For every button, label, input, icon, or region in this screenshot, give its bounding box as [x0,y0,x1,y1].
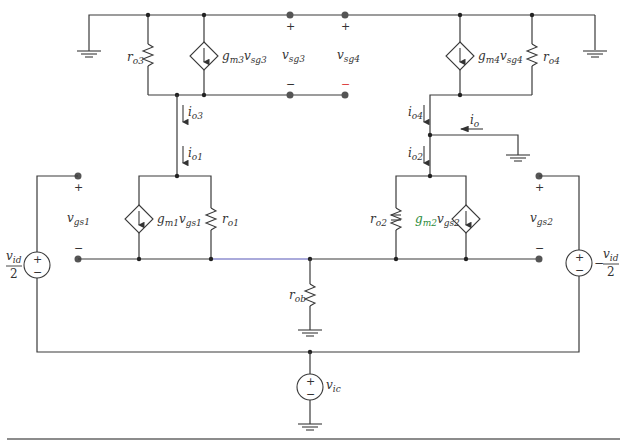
gm4-label: gm4vsg4 [478,49,523,65]
io-label: io [470,113,480,129]
svg-text:−: − [286,78,295,91]
ro2-label: ro2 [370,212,387,228]
resistor-ro4 [527,15,537,95]
dependent-current-source-gm2 [452,205,480,259]
vgs1-label: vgs1 [67,211,90,227]
svg-text:−: − [74,242,83,255]
resistor-ro2 [391,205,401,259]
svg-text:−: − [33,266,42,279]
io1-label: io1 [188,146,203,162]
voltage-source-vic: + − [297,374,323,401]
svg-text:2: 2 [10,267,18,281]
svg-text:+: + [33,253,42,266]
resistor-ro3 [143,15,153,95]
ground-icon [77,44,101,57]
ro3-label: ro3 [127,50,144,66]
svg-text:vid: vid [6,249,22,265]
dependent-current-source-gm4 [446,15,474,95]
io3-label: io3 [188,105,203,121]
vsg4-label: vsg4 [337,48,360,64]
gm1-label: gm1vgs1 [157,212,202,228]
voltage-source-vid-half-right: + − [566,250,592,277]
ground-icon [298,424,322,430]
svg-text:−: − [306,388,315,401]
rob-label: rob [289,288,306,304]
dependent-current-source-gm1 [125,205,153,259]
resistor-rob [305,259,315,330]
gm3-label: gm3vsg3 [222,49,267,65]
io2-label: io2 [408,146,423,162]
svg-text:−: − [535,242,544,255]
vic-label: vic [326,378,341,394]
svg-text:−: − [341,78,350,91]
vid-half-left-label: vid 2 [6,249,22,281]
svg-text:+: + [575,251,584,264]
svg-text:+: + [74,181,83,194]
svg-text:+: + [341,20,350,33]
voltage-source-vid-half-left: + − [24,252,50,279]
vid-half-right-label: − vid 2 [594,247,619,279]
svg-text:−: − [575,264,584,277]
circuit-diagram: ro3 gm3vsg3 + − vsg3 + − vsg4 gm4vsg4 [0,0,632,446]
resistor-ro1 [206,205,216,259]
ro1-label: ro1 [222,212,239,228]
dependent-current-source-gm3 [190,15,218,95]
ground-icon [298,330,322,336]
vsg3-label: vsg3 [282,48,305,64]
svg-text:+: + [535,181,544,194]
ground-icon [506,155,530,161]
ro4-label: ro4 [543,50,560,66]
io4-label: io4 [408,105,423,121]
svg-text:+: + [286,20,295,33]
svg-text:+: + [306,375,315,388]
vgs2-label: vgs2 [530,211,553,227]
svg-text:vid: vid [603,247,619,263]
ground-icon [583,51,607,57]
svg-text:2: 2 [607,265,615,279]
